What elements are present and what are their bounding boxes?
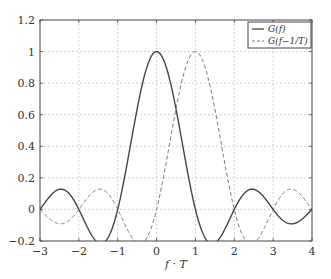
x-tick-label: 4 <box>309 245 316 258</box>
legend: G(f) G(f−1/T) <box>248 22 311 48</box>
y-tick-label: 0.2 <box>18 172 36 185</box>
y-tick-label: −0.2 <box>8 235 35 248</box>
x-tick-label: 1 <box>192 245 199 258</box>
chart: −3−2−101234−0.200.20.40.60.811.2 f · T G… <box>0 0 331 279</box>
legend-label-gf-shifted: G(f−1/T) <box>268 36 308 46</box>
x-tick-label: −1 <box>110 245 126 258</box>
legend-label-gf: G(f) <box>268 24 286 34</box>
y-tick-label: 0 <box>28 203 35 216</box>
plot-curves <box>40 52 312 244</box>
x-tick-label: 0 <box>153 245 160 258</box>
x-tick-label: −2 <box>71 245 87 258</box>
y-tick-label: 1.2 <box>18 14 36 27</box>
y-tick-label: 0.4 <box>18 140 36 153</box>
x-tick-label: 3 <box>270 245 277 258</box>
axis-ticks: −3−2−101234−0.200.20.40.60.811.2 <box>8 14 315 258</box>
curve-g <box>40 52 312 244</box>
y-tick-label: 1 <box>28 46 35 59</box>
y-tick-label: 0.8 <box>18 77 36 90</box>
x-axis-label: f · T <box>164 258 189 271</box>
x-tick-label: 2 <box>231 245 238 258</box>
y-tick-label: 0.6 <box>18 109 36 122</box>
